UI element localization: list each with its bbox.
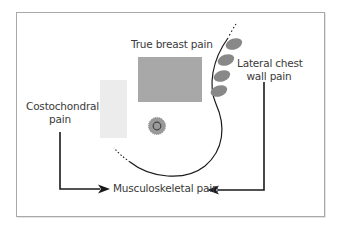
costochondral-label-line1: Costochondral: [26, 100, 94, 113]
lateral-connector: [218, 82, 264, 190]
lateral-chest-wall-label-line1: Lateral chest: [237, 57, 301, 70]
costochondral-label-line2: pain: [26, 113, 94, 126]
breast-outline-dotted-top: [228, 24, 236, 38]
lateral-chest-wall-label-line2: wall pain: [237, 70, 301, 83]
breast-outline-dotted-bottom: [114, 148, 130, 162]
true-breast-pain-label: True breast pain: [131, 38, 213, 51]
costochondral-connector: [60, 132, 100, 189]
nipple-icon: [149, 118, 166, 135]
lateral-chest-wall-label: Lateral chest wall pain: [237, 57, 301, 83]
costochondral-region: [100, 80, 127, 138]
true-breast-region: [138, 57, 202, 102]
musculoskeletal-pain-label: Musculoskeletal pain: [113, 182, 218, 195]
costochondral-label: Costochondral pain: [26, 100, 94, 126]
